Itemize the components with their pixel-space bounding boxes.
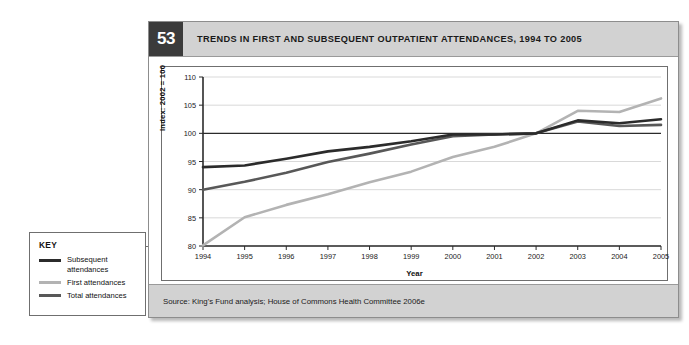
key-item-label: Subsequent attendances [67, 255, 145, 274]
line-chart-svg [162, 67, 669, 282]
x-tick-label: 1994 [195, 252, 211, 261]
key-color-swatch [39, 281, 61, 284]
x-axis-tick-labels: 1994199519961997199819992000200120022003… [162, 252, 667, 264]
series-line [203, 119, 661, 167]
key-color-swatch [39, 294, 61, 297]
key-item: First attendances [39, 278, 145, 288]
key-legend-box: KEY Subsequent attendancesFirst attendan… [29, 232, 146, 316]
plot-area: Index: 2002 = 100 80859095100105110 1994… [162, 67, 667, 280]
key-item-list: Subsequent attendancesFirst attendancesT… [39, 255, 145, 300]
x-tick-label: 2004 [611, 252, 627, 261]
key-item: Subsequent attendances [39, 255, 145, 274]
x-axis-title: Year [162, 269, 667, 278]
x-tick-label: 2000 [445, 252, 461, 261]
key-item: Total attendances [39, 291, 145, 301]
chart-plot-frame: Index: 2002 = 100 80859095100105110 1994… [161, 66, 668, 281]
x-tick-label: 2001 [486, 252, 502, 261]
x-tick-label: 2005 [653, 252, 669, 261]
key-item-label: First attendances [67, 278, 125, 288]
key-item-label: Total attendances [67, 291, 127, 301]
key-color-swatch [39, 259, 61, 262]
figure-panel: 53 TRENDS IN FIRST AND SUBSEQUENT OUTPAT… [148, 21, 679, 318]
x-tick-label: 1995 [236, 252, 252, 261]
x-tick-label: 1996 [278, 252, 294, 261]
x-tick-label: 2003 [569, 252, 585, 261]
source-band: Source: King's Fund analysis; House of C… [149, 284, 678, 317]
series-line [203, 122, 661, 190]
key-title: KEY [39, 240, 145, 250]
x-tick-label: 1998 [361, 252, 377, 261]
figure-header: 53 TRENDS IN FIRST AND SUBSEQUENT OUTPAT… [149, 22, 678, 57]
figure-title: TRENDS IN FIRST AND SUBSEQUENT OUTPATIEN… [183, 22, 678, 56]
figure-number-badge: 53 [149, 22, 183, 56]
source-text: Source: King's Fund analysis; House of C… [163, 297, 425, 306]
x-tick-label: 2002 [528, 252, 544, 261]
x-tick-label: 1997 [320, 252, 336, 261]
x-tick-label: 1999 [403, 252, 419, 261]
